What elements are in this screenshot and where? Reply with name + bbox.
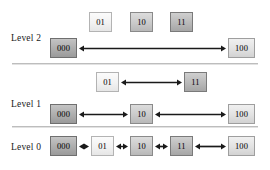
node-01[interactable]: 01 [89, 12, 112, 32]
node-100[interactable]: 100 [228, 38, 255, 58]
level-diagram: Level 2011011000100Level 1011100010100Le… [0, 0, 270, 170]
node-000[interactable]: 000 [50, 104, 77, 124]
node-000[interactable]: 000 [50, 136, 77, 156]
bidirectional-arrow [79, 110, 128, 119]
bidirectional-arrow [79, 44, 226, 53]
node-100[interactable]: 100 [228, 104, 255, 124]
node-11[interactable]: 11 [170, 12, 193, 32]
bidirectional-arrow [79, 142, 89, 151]
level-divider [12, 63, 258, 64]
node-11[interactable]: 11 [170, 136, 193, 156]
node-10[interactable]: 10 [130, 136, 153, 156]
bidirectional-arrow [116, 142, 128, 151]
node-01[interactable]: 01 [91, 136, 114, 156]
node-100[interactable]: 100 [228, 136, 255, 156]
level-divider [12, 126, 258, 127]
node-01[interactable]: 01 [96, 72, 119, 92]
level-label-level-2: Level 2 [11, 33, 41, 43]
bidirectional-arrow [155, 142, 168, 151]
node-11[interactable]: 11 [184, 72, 207, 92]
bidirectional-arrow [121, 78, 182, 87]
node-000[interactable]: 000 [50, 38, 77, 58]
node-10[interactable]: 10 [130, 104, 153, 124]
level-label-level-1: Level 1 [11, 99, 41, 109]
bidirectional-arrow [195, 142, 226, 151]
bidirectional-arrow [155, 110, 226, 119]
node-10[interactable]: 10 [130, 12, 153, 32]
level-label-level-0: Level 0 [11, 142, 41, 152]
